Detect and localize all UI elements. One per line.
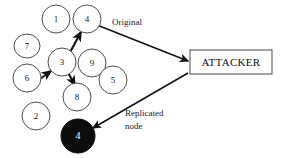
annotation-replicated-line-2: node: [125, 121, 143, 131]
sensor-node-group: 1 4 7 3 9 6 5: [13, 5, 127, 153]
edge-node6-to-node3: [40, 71, 51, 79]
node-label-4: 4: [85, 14, 90, 24]
node-label-8: 8: [75, 92, 80, 102]
node-label-7: 7: [25, 41, 30, 51]
sensor-node-2[interactable]: 2: [22, 102, 50, 130]
node-label-6: 6: [25, 73, 30, 83]
replicated-node-4[interactable]: 4: [61, 119, 95, 153]
node-label-5: 5: [111, 75, 116, 85]
annotation-replicated-line-1: Replicated: [125, 108, 164, 118]
sensor-node-8[interactable]: 8: [63, 83, 91, 111]
node-label-3: 3: [60, 57, 65, 67]
sensor-node-5[interactable]: 5: [99, 66, 127, 94]
diagram-canvas: 1 4 7 3 9 6 5: [0, 0, 281, 158]
edge-node4-to-attacker: [97, 25, 188, 61]
sensor-node-3[interactable]: 3: [48, 48, 76, 76]
sensor-node-4[interactable]: 4: [73, 5, 101, 33]
network-diagram: 1 4 7 3 9 6 5: [0, 0, 281, 158]
node-label-2: 2: [34, 111, 39, 121]
node-label-1: 1: [54, 14, 59, 24]
attacker-box-label: ATTACKER: [202, 56, 261, 68]
node-label-9: 9: [90, 58, 95, 68]
sensor-node-1[interactable]: 1: [42, 5, 70, 33]
sensor-node-7[interactable]: 7: [14, 34, 40, 58]
node-label-replicated-4: 4: [76, 130, 81, 141]
annotation-original: Original: [112, 17, 142, 27]
sensor-node-6[interactable]: 6: [13, 64, 41, 92]
attacker-box[interactable]: ATTACKER: [190, 50, 272, 74]
